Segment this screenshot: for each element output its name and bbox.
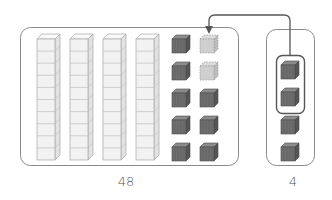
unit-cube [172,62,190,80]
tens-rod [70,34,93,160]
right-units-cubes [281,61,299,161]
base-ten-diagram [0,0,332,200]
unit-cube [200,116,218,134]
unit-cube [281,116,299,134]
right-group-label: 4 [278,174,308,189]
unit-cube [281,61,299,79]
tens-rod [136,34,159,160]
ghost-cube [200,62,218,80]
unit-cube [172,35,190,53]
unit-cube [172,143,190,161]
unit-cube [172,116,190,134]
unit-cube [281,143,299,161]
regroup-arrow-icon [209,15,290,55]
unit-cube [172,89,190,107]
tens-rod [37,34,60,160]
tens-rods [37,34,159,160]
ghost-cube [200,35,218,53]
unit-cube [200,143,218,161]
unit-cube [281,88,299,106]
tens-rod [103,34,126,160]
unit-cube [200,89,218,107]
left-units-cubes [172,35,218,161]
left-group-label: 48 [106,174,146,189]
